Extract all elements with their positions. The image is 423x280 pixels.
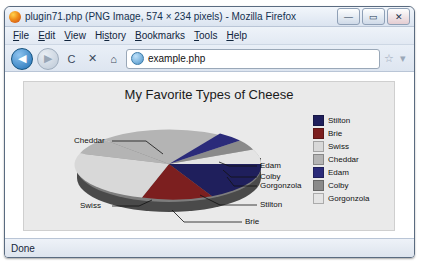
address-bar[interactable]: example.php [126,49,380,69]
callout-cheddar: Cheddar [74,136,105,145]
menu-item-help[interactable]: Help [226,30,247,41]
menu-item-tools[interactable]: Tools [194,30,217,41]
callout-stilton: Stilton [260,200,282,209]
bookmark-star-icon[interactable]: ☆ [384,52,396,65]
legend-swatch-cheddar [313,154,324,165]
legend-label-colby: Colby [328,181,348,190]
callout-swiss: Swiss [80,201,101,210]
legend-item: Cheddar [313,154,387,165]
maximize-icon: ▭ [363,12,384,21]
status-bar: Done [5,238,414,257]
forward-button[interactable]: ▶ [37,48,59,70]
callout-edam: Edam [260,161,281,170]
forward-icon: ▶ [44,52,52,65]
maximize-button[interactable]: ▭ [362,8,385,25]
menu-item-view[interactable]: View [64,30,86,41]
menu-item-file[interactable]: FFileile [13,30,29,41]
back-icon: ◀ [18,52,26,65]
minimize-button[interactable]: — [337,8,360,25]
legend-swatch-brie [313,128,324,139]
back-button[interactable]: ◀ [11,48,33,70]
pie-chart-image: My Favorite Types of Cheese [23,81,395,231]
legend-item: Stilton [313,115,387,126]
close-icon: ✕ [388,12,409,21]
globe-icon [131,52,144,65]
legend-swatch-stilton [313,115,324,126]
chart-legend: Stilton Brie Swiss Cheddar Edam [313,115,387,204]
legend-item: Swiss [313,141,387,152]
callout-colby: Colby [260,172,280,181]
chevron-down-icon[interactable]: ▾ [400,52,408,65]
legend-item: Colby [313,180,387,191]
legend-item: Gorgonzola [313,193,387,204]
legend-label-gorgonzola: Gorgonzola [328,194,369,203]
reload-button[interactable]: ✕ [84,50,101,67]
menu-item-bookmarks[interactable]: Bookmarks [135,30,185,41]
minimize-icon: — [338,12,359,21]
status-text: Done [11,243,35,254]
legend-swatch-gorgonzola [313,193,324,204]
legend-swatch-colby [313,180,324,191]
legend-label-brie: Brie [328,129,342,138]
address-input[interactable]: example.php [148,53,205,64]
legend-item: Brie [313,128,387,139]
legend-label-stilton: Stilton [328,116,350,125]
home-button[interactable]: ⌂ [105,50,122,67]
legend-label-cheddar: Cheddar [328,155,359,164]
browser-window: plugin71.php (PNG Image, 574 × 234 pixel… [4,6,415,258]
legend-label-swiss: Swiss [328,142,349,151]
page-content: My Favorite Types of Cheese [5,71,414,239]
menu-item-history[interactable]: History [95,30,126,41]
menu-bar: FFileile Edit View History Bookmarks Too… [5,27,414,45]
legend-swatch-edam [313,167,324,178]
legend-item: Edam [313,167,387,178]
navigation-toolbar: ◀ ▶ C ✕ ⌂ example.php ☆ ▾ [5,45,414,73]
close-button[interactable]: ✕ [387,8,410,25]
callout-gorgonzola: Gorgonzola [260,181,301,190]
firefox-icon [9,11,21,23]
window-controls: — ▭ ✕ [337,8,410,25]
stop-button[interactable]: C [63,50,80,67]
callout-brie: Brie [245,217,259,226]
legend-swatch-swiss [313,141,324,152]
legend-label-edam: Edam [328,168,349,177]
window-title: plugin71.php (PNG Image, 574 × 234 pixel… [25,11,337,22]
menu-item-edit[interactable]: Edit [38,30,55,41]
title-bar[interactable]: plugin71.php (PNG Image, 574 × 234 pixel… [5,7,414,27]
